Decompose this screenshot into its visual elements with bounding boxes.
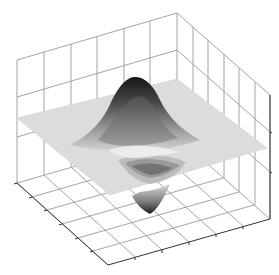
- surface-plot: [0, 0, 279, 275]
- surface-trough: [132, 184, 170, 214]
